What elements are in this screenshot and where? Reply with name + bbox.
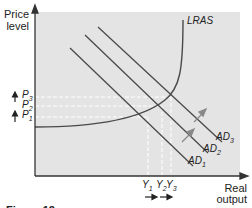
figure-caption: Figure 12 (6, 204, 55, 208)
x-axis-label-line2: output (216, 193, 247, 205)
y-axis-label-line2: level (6, 20, 29, 32)
lras-label: LRAS (187, 15, 213, 26)
x-axis-arrow-icon (240, 173, 248, 179)
output-right-arrows (145, 195, 172, 200)
up-arrow-icon (13, 92, 18, 97)
ad-lras-diagram: Price level Real output LRAS AD3 AD2 AD1… (0, 0, 252, 208)
y1-label: Y1 (142, 179, 153, 192)
price-up-arrows (13, 92, 18, 122)
right-arrow-icon (167, 195, 172, 200)
right-arrow-icon (152, 195, 157, 200)
y3-label: Y3 (166, 179, 177, 192)
y-axis-arrow-icon (32, 5, 38, 13)
y-axis-label-line1: Price (4, 8, 29, 20)
up-arrow-icon (13, 111, 18, 116)
